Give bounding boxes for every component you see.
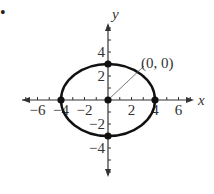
annotation-leader <box>108 66 144 100</box>
y-tick-label: 2 <box>98 68 106 84</box>
x-tick-label: −6 <box>30 102 46 118</box>
x-axis-label: x <box>197 92 205 108</box>
y-axis-label: y <box>110 6 119 22</box>
y-tick-label: −4 <box>89 140 105 156</box>
data-point <box>104 60 111 67</box>
data-point <box>57 96 64 103</box>
ellipse-chart: −6−4−2246−4−224xy(0, 0) <box>0 0 214 194</box>
data-point <box>151 96 158 103</box>
y-tick-label: −2 <box>89 116 105 132</box>
y-tick-label: 4 <box>98 44 106 60</box>
y-axis-top-arrow-icon <box>105 23 111 31</box>
y-axis-bottom-arrow-icon <box>105 169 111 177</box>
x-tick-label: 6 <box>175 102 183 118</box>
annotation-label: (0, 0) <box>141 55 174 72</box>
data-point <box>104 132 111 139</box>
x-tick-label: 2 <box>128 102 136 118</box>
data-point <box>104 96 111 103</box>
